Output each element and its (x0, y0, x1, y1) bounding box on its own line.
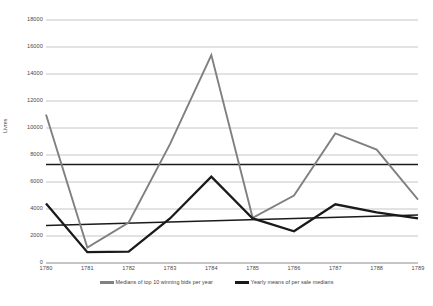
series-line-1 (46, 177, 418, 253)
legend-label: Yearly means of per sale medians (251, 280, 334, 285)
x-tick-label: 1783 (164, 266, 177, 272)
gridlines (46, 20, 418, 263)
legend-item[interactable]: Medians of top 10 winning bids per year (100, 280, 213, 285)
y-tick-label: 6000 (30, 179, 43, 185)
x-tick-label: 1789 (412, 266, 425, 272)
chart-container: Livres 020004000600080001000012000140001… (0, 0, 433, 306)
x-tick-label: 1782 (122, 266, 135, 272)
legend-swatch-icon (100, 281, 114, 284)
legend-label: Medians of top 10 winning bids per year (116, 280, 213, 285)
y-tick-label: 14000 (27, 71, 43, 77)
legend-swatch-icon (235, 281, 249, 284)
y-tick-label: 12000 (27, 98, 43, 104)
plot-area (46, 20, 418, 263)
y-tick-label: 2000 (30, 233, 43, 239)
y-tick-label: 16000 (27, 44, 43, 50)
x-tick-label: 1787 (329, 266, 342, 272)
x-tick-label: 1788 (370, 266, 383, 272)
legend-item[interactable]: Yearly means of per sale medians (235, 280, 334, 285)
series-line-0 (46, 55, 418, 247)
y-axis-tick-labels: 0200040006000800010000120001400016000180… (14, 20, 43, 263)
y-tick-label: 8000 (30, 152, 43, 158)
y-axis-title: Livres (3, 119, 8, 133)
y-tick-label: 4000 (30, 206, 43, 212)
x-axis-tick-labels: 1780178117821783178417851786178717881789 (46, 266, 418, 278)
x-tick-label: 1786 (288, 266, 301, 272)
trendlines (46, 164, 418, 225)
x-tick-label: 1784 (205, 266, 218, 272)
x-tick-label: 1780 (40, 266, 53, 272)
data-series-group (46, 55, 418, 252)
chart-plot-svg (46, 20, 418, 263)
y-tick-label: 10000 (27, 125, 43, 131)
y-tick-label: 18000 (27, 17, 43, 23)
trend-bottom-series (46, 215, 418, 226)
x-tick-label: 1781 (81, 266, 94, 272)
chart-legend: Medians of top 10 winning bids per yearY… (0, 280, 433, 285)
x-tick-label: 1785 (246, 266, 259, 272)
